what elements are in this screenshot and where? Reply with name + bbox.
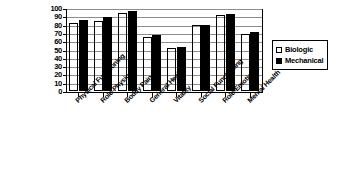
y-axis-tick-label: 100 <box>50 5 62 13</box>
y-axis-tick-label: 80 <box>54 22 62 30</box>
y-axis-tick <box>63 51 67 52</box>
y-axis-tick <box>63 17 67 18</box>
y-axis-tick-label: 50 <box>54 47 62 55</box>
y-axis-tick-label: 60 <box>54 38 62 46</box>
bar-mechanical <box>79 20 88 91</box>
y-axis-tick <box>63 34 67 35</box>
y-axis-tick <box>63 75 67 76</box>
bar-mechanical <box>201 25 210 91</box>
y-axis-tick <box>63 59 67 60</box>
y-axis-tick <box>63 9 67 10</box>
bar-biologic <box>192 25 201 91</box>
y-axis-tick-label: 0 <box>58 88 62 96</box>
chart-legend: Biologic Mechanical <box>272 40 328 70</box>
hollow-square-icon <box>276 47 282 53</box>
y-axis-tick-label: 30 <box>54 63 62 71</box>
y-axis-tick <box>63 26 67 27</box>
bar-mechanical <box>226 14 235 91</box>
grid-line <box>66 9 262 10</box>
bar-mechanical <box>250 32 259 91</box>
y-axis-tick-label: 40 <box>54 55 62 63</box>
y-axis-tick <box>63 92 67 93</box>
y-axis-tick <box>63 84 67 85</box>
y-axis-tick-label: 20 <box>54 72 62 80</box>
y-axis-tick-label: 90 <box>54 14 62 22</box>
y-axis-tick <box>63 42 67 43</box>
filled-square-icon <box>276 58 282 64</box>
y-axis-tick-label: 10 <box>54 80 62 88</box>
bar-biologic <box>69 23 78 91</box>
bar-mechanical <box>152 35 161 91</box>
y-axis-tick-label: 70 <box>54 30 62 38</box>
y-axis-tick <box>63 67 67 68</box>
legend-label-biologic: Biologic <box>285 46 313 54</box>
legend-label-mechanical: Mechanical <box>285 57 323 65</box>
bar-mechanical <box>103 17 112 91</box>
legend-item-mechanical: Mechanical <box>276 55 323 66</box>
legend-item-biologic: Biologic <box>276 44 323 55</box>
bar-chart: 0102030405060708090100 Physical Function… <box>0 0 340 179</box>
